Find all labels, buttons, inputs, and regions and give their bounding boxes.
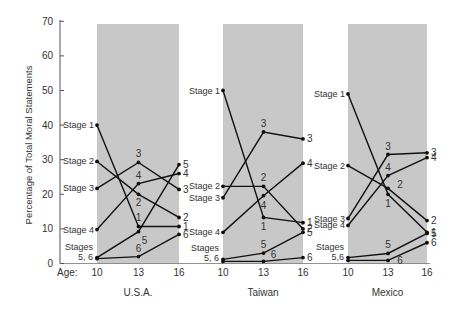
stage-label: Stage 1 [189, 86, 220, 96]
mid-label: 2 [136, 197, 142, 208]
mid-label: 3 [261, 118, 267, 129]
y-tick-label: 60 [42, 50, 54, 61]
end-label: 6 [431, 237, 437, 248]
end-label: 3 [307, 133, 313, 144]
data-point [177, 163, 181, 167]
data-point [346, 258, 350, 262]
x-tick-label: 13 [133, 267, 145, 278]
data-point [301, 230, 305, 234]
stage-label: 5, 6 [78, 252, 93, 262]
country-label: Taiwan [247, 287, 278, 298]
stage-label: Stage 2 [189, 181, 220, 191]
data-point [346, 164, 350, 168]
stage-label: Stages [191, 243, 220, 253]
end-label: 5 [183, 159, 189, 170]
data-point [262, 130, 266, 134]
data-point [346, 92, 350, 96]
data-point [177, 188, 181, 192]
data-point [95, 257, 99, 261]
data-point [262, 216, 266, 220]
data-point [386, 258, 390, 262]
x-tick-label: 10 [217, 267, 229, 278]
mid-label: 5 [261, 239, 267, 250]
x-tick-label: 13 [258, 267, 270, 278]
data-point [262, 251, 266, 255]
country-label: U.S.A. [124, 287, 153, 298]
data-point [177, 225, 181, 229]
y-tick-label: 50 [42, 85, 54, 96]
data-point [301, 161, 305, 165]
data-point [262, 260, 266, 264]
stage-label: Stage 4 [314, 220, 345, 230]
data-point [301, 137, 305, 141]
stage-label: 5,6 [331, 252, 344, 262]
data-point [346, 217, 350, 221]
mid-label: 4 [136, 170, 142, 181]
y-tick-label: 0 [47, 258, 53, 269]
y-tick-label: 70 [42, 16, 54, 27]
x-tick-label: 13 [382, 267, 394, 278]
data-point [137, 192, 141, 196]
stage-label: Stage 2 [314, 161, 345, 171]
mid-label: 3 [136, 148, 142, 159]
data-point [425, 151, 429, 155]
stage-label: Stage 3 [63, 183, 94, 193]
stage-label: Stage 4 [63, 225, 94, 235]
mid-label: 2 [261, 172, 267, 183]
data-point [177, 216, 181, 220]
data-point [137, 230, 141, 234]
x-tick-label: 16 [297, 267, 309, 278]
data-point [301, 221, 305, 225]
data-point [95, 123, 99, 127]
mid-label: 1 [261, 221, 267, 232]
x-tick-label: 16 [173, 267, 185, 278]
stage-label: Stage 3 [189, 193, 220, 203]
country-label: Mexico [372, 287, 404, 298]
mid-label: 6 [397, 255, 403, 266]
mid-label: 5 [142, 235, 148, 246]
mid-label: 5 [385, 239, 391, 250]
data-point [221, 260, 225, 264]
y-tick-label: 30 [42, 154, 54, 165]
data-point [425, 156, 429, 160]
mid-label: 6 [136, 243, 142, 254]
x-tick-label: 16 [421, 267, 433, 278]
stage-label: Stage 1 [63, 120, 94, 130]
data-point [177, 233, 181, 237]
stage-label: Stages [65, 242, 94, 252]
x-tick-label: 10 [91, 267, 103, 278]
data-point [301, 256, 305, 260]
stage-label: Stage 4 [189, 227, 220, 237]
data-point [137, 182, 141, 186]
mid-label: 6 [271, 249, 277, 260]
data-point [386, 187, 390, 191]
data-point [221, 184, 225, 188]
end-label: 2 [183, 212, 189, 223]
y-tick-label: 40 [42, 120, 54, 131]
stage-label: Stage 1 [314, 89, 345, 99]
mid-label: 2 [397, 179, 403, 190]
data-point [386, 192, 390, 196]
data-point [95, 160, 99, 164]
end-label: 5 [307, 227, 313, 238]
y-tick-label: 10 [42, 223, 54, 234]
moral-stages-chart: 010203040506070Percentage of Total Moral… [0, 0, 458, 315]
data-point [301, 227, 305, 231]
data-point [137, 161, 141, 165]
data-point [386, 174, 390, 178]
data-point [137, 225, 141, 229]
data-point [95, 187, 99, 191]
mid-label: 4 [261, 200, 267, 211]
stage-label: Stages [316, 242, 345, 252]
data-point [262, 194, 266, 198]
data-point [262, 184, 266, 188]
end-label: 4 [307, 158, 313, 169]
data-point [177, 172, 181, 176]
mid-label: 4 [385, 162, 391, 173]
mid-label: 1 [385, 198, 391, 209]
end-label: 4 [431, 152, 437, 163]
data-point [386, 153, 390, 157]
end-label: 2 [431, 215, 437, 226]
end-label: 6 [307, 252, 313, 263]
stage-label: 5, 6 [204, 253, 219, 263]
